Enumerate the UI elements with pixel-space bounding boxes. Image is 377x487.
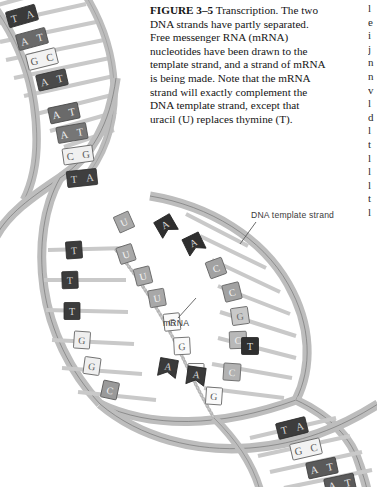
bubble-left-bases: T T T G G [62,241,120,400]
svg-text:T: T [69,306,75,317]
figure-number: FIGURE 3–5 [150,4,213,16]
svg-text:G: G [236,311,245,323]
svg-text:G: G [178,341,186,352]
adjacent-column-sliver: l e i j n n v l d l t l l l t l [368,2,377,252]
svg-text:G: G [210,391,218,402]
svg-text:C: C [234,335,241,346]
svg-text:T: T [67,275,73,286]
svg-text:C: C [228,367,236,378]
svg-text:T: T [247,341,253,352]
figure-title: Transcription. [216,4,279,16]
svg-text:T: T [71,245,78,256]
figure-caption-body: The two DNA strands have partly separate… [150,4,325,125]
figure-caption: FIGURE 3–5 Transcription. The two DNA st… [150,4,326,126]
label-mrna: mRNA [163,318,189,328]
figure-panel: T A A T G C A T [0,0,377,487]
svg-text:G: G [78,335,86,346]
mrna-strand [116,250,214,418]
bubble-bottom-backbone [100,400,296,422]
mrna-leader-line [178,298,196,318]
label-dna-template-strand: DNA template strand [251,210,334,220]
svg-text:G: G [88,361,97,373]
